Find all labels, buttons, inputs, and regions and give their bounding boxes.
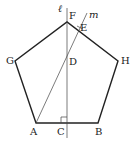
label-C: C [57, 126, 65, 137]
pentagon-diagram: ℓ m F E G H D A C B [0, 0, 132, 142]
label-B: B [95, 126, 102, 137]
label-G: G [6, 55, 14, 66]
label-line-l: ℓ [58, 3, 62, 14]
right-angle-mark [61, 117, 67, 123]
label-A: A [29, 126, 38, 137]
label-line-m: m [89, 9, 98, 20]
pentagon-AGFHB [15, 22, 118, 123]
label-F: F [69, 10, 76, 21]
label-H: H [121, 55, 130, 66]
label-D: D [69, 56, 77, 67]
label-E: E [80, 22, 87, 33]
